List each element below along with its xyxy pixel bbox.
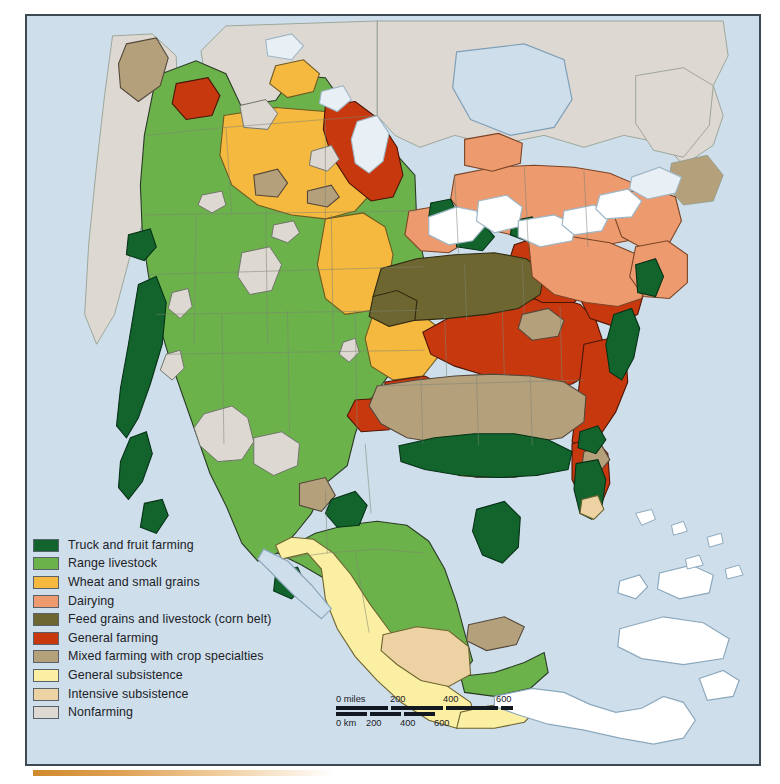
map-page: Truck and fruit farming Range livestock … — [0, 0, 780, 784]
legend-item-intensive-subsistence[interactable]: Intensive subsistence — [33, 685, 333, 704]
scale-km-tick-3: 600 — [434, 718, 450, 728]
legend-label-range-livestock: Range livestock — [68, 557, 157, 570]
legend-item-truck-and-fruit-farming[interactable]: Truck and fruit farming — [33, 536, 333, 555]
legend-label-general-farming: General farming — [68, 632, 158, 645]
scale-miles-unit: 0 miles — [336, 694, 365, 704]
scale-miles-tick-2: 400 — [443, 694, 459, 704]
scale-miles-bar — [336, 706, 566, 710]
scale-km-unit: 0 km — [336, 718, 356, 728]
legend-label-intensive-subsistence: Intensive subsistence — [68, 688, 189, 701]
legend-label-feed-grains-and-livestock: Feed grains and livestock (corn belt) — [68, 613, 271, 626]
legend-swatch-range-livestock — [33, 557, 59, 570]
legend-swatch-general-subsistence — [33, 669, 59, 682]
legend-label-truck-and-fruit-farming: Truck and fruit farming — [68, 539, 194, 552]
legend-item-range-livestock[interactable]: Range livestock — [33, 555, 333, 574]
legend-item-nonfarming[interactable]: Nonfarming — [33, 703, 333, 722]
legend-label-dairying: Dairying — [68, 595, 114, 608]
legend-swatch-intensive-subsistence — [33, 688, 59, 701]
legend-swatch-dairying — [33, 595, 59, 608]
legend-item-mixed-farming-with-crop-specialties[interactable]: Mixed farming with crop specialties — [33, 648, 333, 667]
legend-label-mixed-farming-with-crop-specialties: Mixed farming with crop specialties — [68, 650, 264, 663]
scale-miles-ticks: 0 miles 200 400 600 — [336, 694, 566, 705]
scale-km-tick-1: 200 — [366, 718, 382, 728]
legend-item-general-subsistence[interactable]: General subsistence — [33, 666, 333, 685]
scale-km-ticks: 0 km 200 400 600 — [336, 718, 566, 729]
legend-swatch-nonfarming — [33, 706, 59, 719]
legend-swatch-general-farming — [33, 632, 59, 645]
legend-label-nonfarming: Nonfarming — [68, 706, 133, 719]
legend-label-general-subsistence: General subsistence — [68, 669, 183, 682]
legend-label-wheat-and-small-grains: Wheat and small grains — [68, 576, 200, 589]
map-legend: Truck and fruit farming Range livestock … — [33, 536, 333, 722]
legend-swatch-mixed-farming-with-crop-specialties — [33, 650, 59, 663]
legend-swatch-truck-and-fruit-farming — [33, 539, 59, 552]
map-scale-bar: 0 miles 200 400 600 0 km 200 400 600 — [336, 694, 566, 729]
scale-km-tick-2: 400 — [400, 718, 416, 728]
legend-item-dairying[interactable]: Dairying — [33, 592, 333, 611]
scale-km-bar — [336, 712, 566, 716]
legend-swatch-wheat-and-small-grains — [33, 576, 59, 589]
scale-miles-tick-3: 600 — [496, 694, 512, 704]
scale-miles-tick-1: 200 — [390, 694, 406, 704]
legend-item-general-farming[interactable]: General farming — [33, 629, 333, 648]
bottom-accent-bar — [33, 770, 333, 776]
legend-item-wheat-and-small-grains[interactable]: Wheat and small grains — [33, 573, 333, 592]
legend-item-feed-grains-and-livestock[interactable]: Feed grains and livestock (corn belt) — [33, 610, 333, 629]
legend-swatch-feed-grains-and-livestock — [33, 613, 59, 626]
